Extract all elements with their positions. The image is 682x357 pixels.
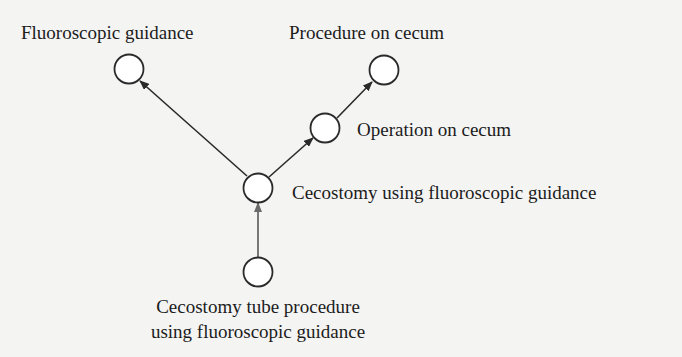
label-fluoroscopic-guidance: Fluoroscopic guidance xyxy=(21,22,194,44)
edge-cecostomy-fluoro-to-operation-on-cecum xyxy=(269,138,313,177)
node-fluoroscopic-guidance xyxy=(115,55,144,84)
node-cecostomy-fluoro xyxy=(244,174,273,203)
node-cecostomy-tube xyxy=(244,258,273,287)
edge-cecostomy-fluoro-to-fluoroscopic-guidance xyxy=(140,81,247,176)
label-operation-on-cecum: Operation on cecum xyxy=(357,119,511,141)
label-cecostomy-tube-line1: Cecostomy tube procedure xyxy=(156,296,360,318)
edge-operation-on-cecum-to-procedure-on-cecum xyxy=(337,82,372,118)
label-cecostomy-tube-line2: using fluoroscopic guidance xyxy=(151,321,365,343)
label-procedure-on-cecum: Procedure on cecum xyxy=(289,22,444,44)
node-operation-on-cecum xyxy=(311,114,340,143)
label-cecostomy-fluoro: Cecostomy using fluoroscopic guidance xyxy=(292,182,596,204)
node-procedure-on-cecum xyxy=(370,56,399,85)
